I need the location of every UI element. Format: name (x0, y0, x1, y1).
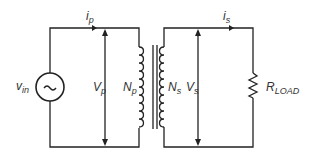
secondary-bottom-wire (164, 98, 253, 147)
vs-arrowhead-top (195, 29, 201, 36)
primary-top-wire (50, 28, 139, 73)
primary-coil-icon (139, 47, 144, 127)
sine-wave-icon (44, 86, 56, 90)
label-ns: Ns (168, 81, 181, 96)
label-ip: ip (86, 10, 94, 25)
vs-arrowhead-bottom (195, 139, 201, 146)
label-np: Np (123, 81, 137, 96)
label-is: is (223, 10, 230, 25)
is-arrow-icon (229, 25, 234, 31)
secondary-top-wire (164, 28, 253, 73)
vp-arrowhead-top (102, 29, 108, 36)
label-rload: RLOAD (266, 81, 299, 96)
resistor-icon (249, 73, 257, 98)
label-vin: vin (16, 80, 29, 95)
ip-arrow-icon (92, 25, 97, 31)
secondary-coil-icon (160, 47, 165, 127)
primary-bottom-wire (50, 101, 139, 147)
label-vp: Vp (93, 81, 106, 96)
label-vs: Vs (186, 81, 199, 96)
vp-arrowhead-bottom (102, 139, 108, 146)
